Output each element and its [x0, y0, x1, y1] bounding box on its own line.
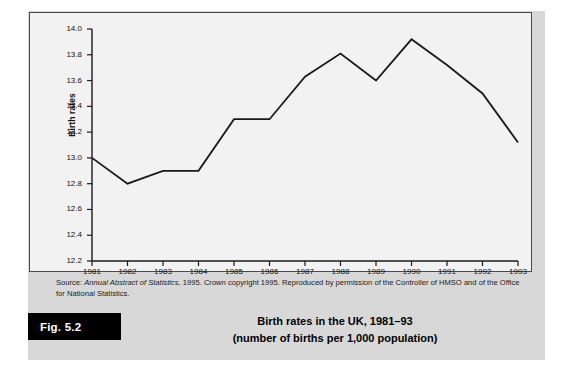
y-axis-tick-label: 13.0: [52, 153, 82, 162]
x-axis-tick-label: 1986: [250, 267, 290, 276]
y-axis-tick-label: 13.2: [52, 127, 82, 136]
y-axis-tick-label: 14.0: [52, 24, 82, 33]
figure-container: Birth rates 12.212.412.612.813.013.213.4…: [0, 0, 571, 377]
x-axis-tick-label: 1982: [108, 267, 148, 276]
line-chart-plot: [30, 13, 531, 271]
caption-line-2: (number of births per 1,000 population): [140, 330, 530, 347]
source-prefix: Source:: [56, 278, 84, 287]
x-axis-tick-label: 1991: [427, 267, 467, 276]
x-axis-tick-label: 1988: [321, 267, 361, 276]
figure-caption: Birth rates in the UK, 1981–93 (number o…: [140, 313, 530, 346]
x-axis-tick-label: 1989: [356, 267, 396, 276]
y-axis-tick-label: 12.4: [52, 230, 82, 239]
birth-rate-series-line: [92, 39, 518, 183]
x-axis-tick-label: 1990: [392, 267, 432, 276]
y-axis-tick-label: 12.8: [52, 179, 82, 188]
y-axis-tick-label: 13.8: [52, 50, 82, 59]
y-axis-tick-label: 12.6: [52, 204, 82, 213]
x-axis-tick-label: 1993: [498, 267, 538, 276]
x-axis-tick-label: 1981: [72, 267, 112, 276]
x-axis-tick-label: 1992: [463, 267, 503, 276]
figure-number-label: Fig. 5.2: [40, 321, 81, 333]
source-note: Source: Annual Abstract of Statistics, 1…: [56, 277, 526, 299]
figure-number-badge: Fig. 5.2: [28, 313, 121, 340]
source-publication-title: Annual Abstract of Statistics: [84, 278, 178, 287]
x-axis-tick-label: 1984: [179, 267, 219, 276]
x-axis-tick-label: 1985: [214, 267, 254, 276]
chart-card: Birth rates 12.212.412.612.813.013.213.4…: [29, 12, 532, 272]
caption-line-1: Birth rates in the UK, 1981–93: [140, 313, 530, 330]
y-axis-tick-label: 13.6: [52, 76, 82, 85]
x-axis-tick-label: 1987: [285, 267, 325, 276]
x-axis-tick-label: 1983: [143, 267, 183, 276]
y-axis-tick-label: 13.4: [52, 101, 82, 110]
y-axis-tick-label: 12.2: [52, 256, 82, 265]
